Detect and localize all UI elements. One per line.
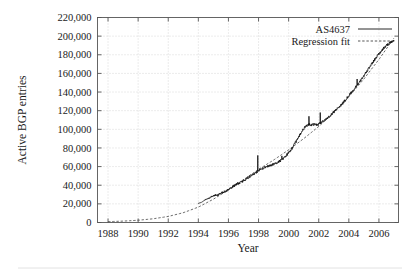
x-tick-label: 1998 [248, 228, 269, 239]
y-tick-label: 40,000 [63, 180, 92, 191]
legend: AS4637Regression fit [291, 24, 392, 47]
y-tick-label: 0 [86, 217, 91, 228]
legend-label-regression-fit: Regression fit [291, 36, 350, 47]
y-tick-label: 180,000 [57, 49, 91, 60]
y-tick-label: 120,000 [57, 105, 91, 116]
x-tick-label: 2006 [368, 228, 389, 239]
y-tick-label: 140,000 [57, 87, 91, 98]
x-tick-label: 1996 [218, 228, 239, 239]
chart-ticks [98, 18, 399, 223]
y-axis-title: Active BGP entries [16, 75, 28, 165]
as4637-data-line [198, 40, 394, 203]
y-tick-label: 220,000 [57, 12, 91, 23]
x-tick-label: 1990 [128, 228, 149, 239]
x-tick-labels: 1988199019921994199619982000200220042006 [98, 228, 390, 239]
y-tick-label: 100,000 [57, 124, 91, 135]
x-axis-title: Year [237, 242, 258, 254]
x-tick-label: 1994 [188, 228, 210, 239]
y-tick-label: 160,000 [57, 68, 91, 79]
y-tick-label: 20,000 [63, 198, 92, 209]
regression-fit-line [108, 38, 394, 222]
y-tick-label: 80,000 [63, 143, 92, 154]
bgp-growth-chart: 020,00040,00060,00080,000100,000120,0001… [0, 0, 420, 276]
chart-frame [98, 18, 399, 223]
x-tick-label: 2000 [278, 228, 299, 239]
x-tick-label: 1988 [98, 228, 119, 239]
chart-grid [98, 18, 399, 223]
x-tick-label: 2004 [338, 228, 360, 239]
chart-figure: 020,00040,00060,00080,000100,000120,0001… [0, 0, 420, 276]
y-tick-label: 200,000 [57, 31, 91, 42]
x-tick-label: 1992 [158, 228, 179, 239]
y-tick-label: 60,000 [63, 161, 92, 172]
data-series-group [108, 38, 394, 222]
x-tick-label: 2002 [308, 228, 329, 239]
legend-label-as4637: AS4637 [316, 24, 350, 35]
y-tick-labels: 020,00040,00060,00080,000100,000120,0001… [57, 12, 91, 228]
